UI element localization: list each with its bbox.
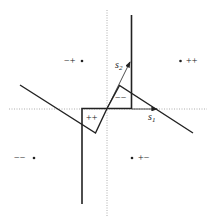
quadrant-upper-right-label: ++ xyxy=(186,55,198,66)
vector-s1-label: s1 xyxy=(148,111,155,124)
quadrant-lower-left-point xyxy=(33,157,36,160)
quadrant-upper-left-label: −+ xyxy=(64,55,76,66)
vector-s2-label: s2 xyxy=(115,59,123,72)
diagram-canvas: s2 s1 ++ −− −+ ++ −− +− xyxy=(0,0,216,223)
quadrant-lower-left-label: −− xyxy=(14,152,26,163)
quadrant-upper-left-point xyxy=(81,60,84,63)
inner-left-label: ++ xyxy=(86,112,98,123)
quadrant-lower-right-label: +− xyxy=(138,152,150,163)
inner-right-label: −− xyxy=(115,92,127,103)
quadrant-lower-right-point xyxy=(131,157,134,160)
quadrant-upper-right-point xyxy=(179,60,182,63)
